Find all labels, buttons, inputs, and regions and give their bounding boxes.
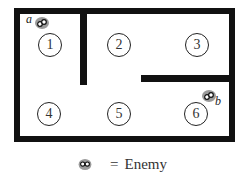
enemy-b-label: b (215, 94, 221, 109)
wall-bottom (14, 136, 235, 142)
wall-left (14, 8, 20, 142)
legend-text: Enemy (124, 156, 167, 173)
legend-equals: = (110, 156, 118, 173)
wall-inner-vertical (80, 8, 87, 85)
room-5: 5 (107, 102, 131, 126)
enemy-icon (78, 159, 92, 170)
enemy-a-label: a (26, 12, 32, 27)
enemy-icon (35, 17, 49, 29)
room-1: 1 (38, 33, 62, 57)
room-6: 6 (184, 102, 208, 126)
room-3: 3 (185, 33, 209, 57)
legend: = Enemy (78, 156, 167, 173)
enemy-icon (202, 90, 216, 102)
room-4: 4 (37, 102, 61, 126)
wall-top (14, 8, 235, 14)
wall-inner-horizontal (141, 75, 235, 82)
room-2: 2 (107, 33, 131, 57)
